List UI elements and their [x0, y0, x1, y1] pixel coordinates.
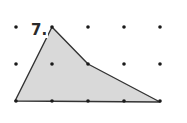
- grid-dot: [158, 62, 162, 66]
- grid-dot: [14, 25, 18, 29]
- grid-dot: [158, 25, 162, 29]
- dot-grid-figure: [0, 0, 187, 123]
- grid-dot: [14, 99, 18, 103]
- grid-dot: [86, 25, 90, 29]
- grid-dot: [122, 99, 126, 103]
- grid-dot: [86, 99, 90, 103]
- grid-dot: [50, 62, 54, 66]
- grid-dot: [14, 62, 18, 66]
- grid-dot: [158, 99, 162, 103]
- grid-dot: [50, 25, 54, 29]
- problem-number: 7.: [31, 22, 48, 38]
- grid-dot: [50, 99, 54, 103]
- grid-dot: [122, 25, 126, 29]
- grid-dot: [86, 62, 90, 66]
- grid-dot: [122, 62, 126, 66]
